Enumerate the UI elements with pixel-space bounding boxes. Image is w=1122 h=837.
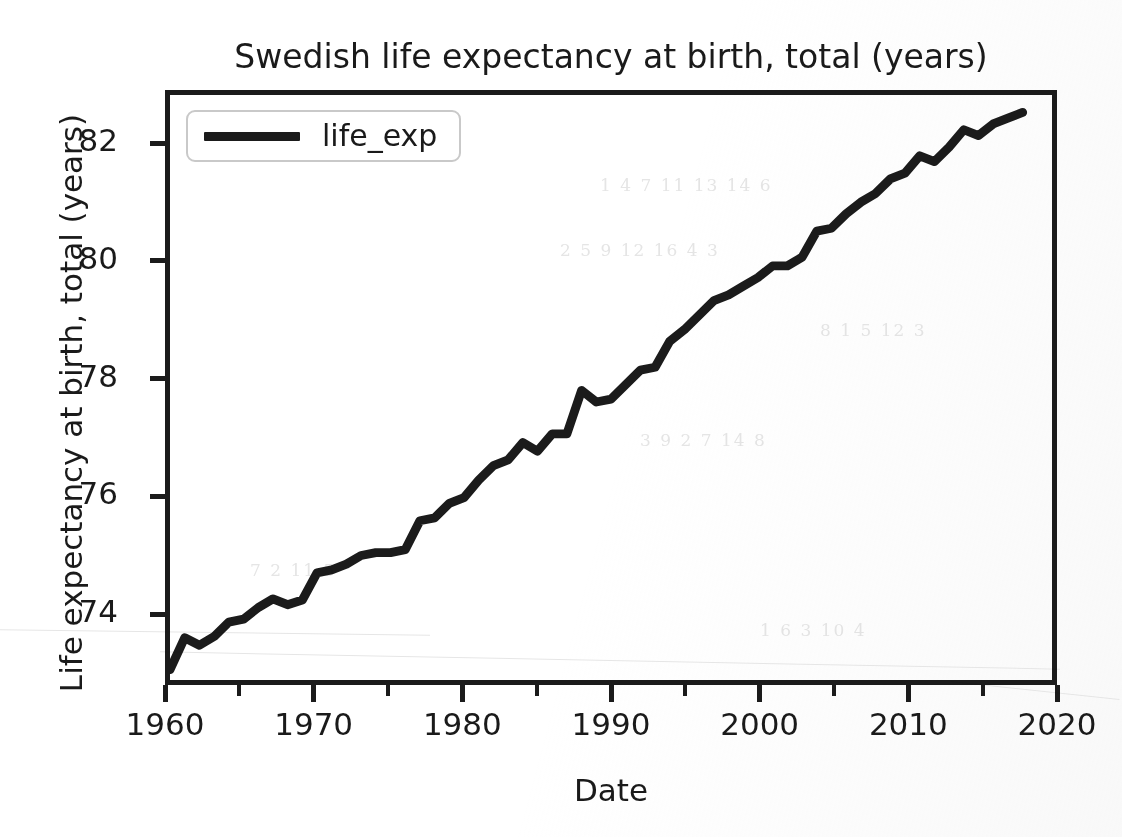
x-minor-tick-mark [981,685,985,696]
x-tick-mark [163,685,168,702]
x-tick-label: 2010 [838,706,978,742]
x-tick-mark [1055,685,1060,702]
x-tick-label: 2000 [690,706,830,742]
y-tick-label: 80 [0,240,118,276]
x-tick-label: 1960 [95,706,235,742]
chart-legend: life_exp [186,110,461,162]
y-tick-label: 76 [0,475,118,511]
y-tick-mark [150,141,165,146]
x-tick-label: 1970 [244,706,384,742]
chart-title: Swedish life expectancy at birth, total … [165,40,1057,75]
y-tick-mark [150,376,165,381]
chart-figure: 1 4 7 11 13 14 6 2 5 9 12 16 4 3 8 1 5 1… [0,0,1122,837]
x-tick-label: 1990 [541,706,681,742]
legend-entry-label: life_exp [322,121,437,151]
legend-line-swatch-icon [204,132,300,141]
y-tick-mark [150,494,165,499]
x-minor-tick-mark [386,685,390,696]
y-tick-label: 78 [0,358,118,394]
y-tick-mark [150,258,165,263]
x-tick-label: 2020 [987,706,1122,742]
y-tick-mark [150,612,165,617]
y-tick-label: 74 [0,593,118,629]
plot-area [165,90,1057,685]
x-tick-mark [609,685,614,702]
x-tick-mark [906,685,911,702]
x-minor-tick-mark [535,685,539,696]
y-tick-label: 82 [0,122,118,158]
x-tick-mark [757,685,762,702]
x-axis-label: Date [165,772,1057,808]
x-minor-tick-mark [237,685,241,696]
x-minor-tick-mark [832,685,836,696]
x-tick-mark [460,685,465,702]
x-tick-label: 1980 [392,706,532,742]
data-series-life_exp [170,95,1052,680]
x-minor-tick-mark [683,685,687,696]
x-tick-mark [311,685,316,702]
